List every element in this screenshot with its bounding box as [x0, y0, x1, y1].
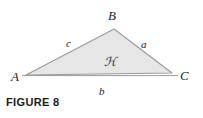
side-label-b: b — [99, 85, 105, 97]
figure-container: A B C c a b ℋ FIGURE 8 — [0, 0, 203, 118]
vertex-label-b: B — [108, 8, 116, 23]
figure-caption: FIGURE 8 — [6, 96, 60, 108]
vertex-label-a: A — [10, 69, 19, 84]
vertex-label-c: C — [180, 68, 189, 83]
side-label-c: c — [66, 37, 71, 49]
side-label-a: a — [141, 38, 147, 50]
triangle-shape — [26, 29, 172, 75]
